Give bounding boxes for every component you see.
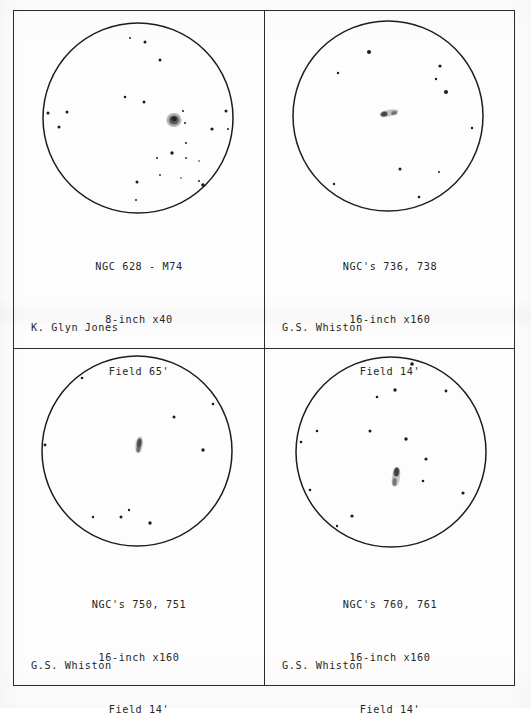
sketch-area-ngc760	[265, 349, 515, 559]
eyepiece-field-ngc760	[284, 353, 496, 557]
caption-object: NGC's 760, 761	[265, 596, 515, 614]
eyepiece-field-ngc736	[284, 15, 496, 219]
panel-ngc628[interactable]: NGC 628 - M74 8-inch x40 Field 65' K. Gl…	[14, 11, 264, 348]
caption-ngc760: NGC's 760, 761 16-inch x160 Field 14'	[265, 561, 515, 717]
caption-ngc750: NGC's 750, 751 16-inch x160 Field 14'	[14, 561, 264, 717]
galaxy-ngc760-761	[391, 467, 401, 488]
sketch-area-ngc736	[265, 11, 515, 221]
observer-name-ngc736: G.S. Whiston	[282, 322, 363, 333]
observer-name-ngc760: G.S. Whiston	[282, 660, 363, 671]
eyepiece-field-ngc628	[33, 15, 245, 219]
sketch-area-ngc750	[14, 349, 264, 559]
galaxy-ngc750-751	[134, 436, 143, 454]
caption-field: Field 14'	[265, 701, 515, 717]
panel-grid: NGC 628 - M74 8-inch x40 Field 65' K. Gl…	[13, 10, 515, 686]
caption-field: Field 14'	[14, 701, 264, 717]
caption-object: NGC 628 - M74	[14, 258, 264, 276]
caption-object: NGC's 736, 738	[265, 258, 515, 276]
sketch-area-ngc628	[14, 11, 264, 221]
galaxy-m74	[167, 113, 182, 127]
observer-name-ngc750: G.S. Whiston	[31, 660, 112, 671]
panel-ngc750[interactable]: NGC's 750, 751 16-inch x160 Field 14' G.…	[14, 349, 264, 686]
panel-ngc760[interactable]: NGC's 760, 761 16-inch x160 Field 14' G.…	[265, 349, 515, 686]
observer-name-ngc628: K. Glyn Jones	[31, 322, 119, 333]
galaxy-ngc736-738	[379, 108, 399, 118]
caption-object: NGC's 750, 751	[14, 596, 264, 614]
eyepiece-field-ngc750	[33, 353, 245, 557]
panel-ngc736[interactable]: NGC's 736, 738 16-inch x160 Field 14' G.…	[265, 11, 515, 348]
